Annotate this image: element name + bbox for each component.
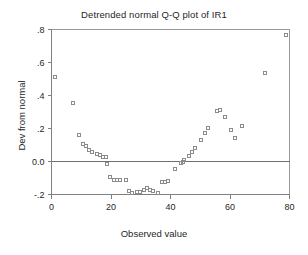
data-point-marker	[152, 190, 155, 193]
data-point-marker	[264, 72, 267, 75]
data-point-marker	[106, 163, 109, 166]
data-point-marker	[207, 127, 210, 130]
data-point-marker	[157, 192, 160, 195]
y-axis-title: Dev from normal	[16, 46, 27, 186]
y-tick-label: .8	[37, 25, 45, 35]
y-tick-label: .2	[37, 124, 45, 134]
data-point-marker	[204, 132, 207, 135]
data-point-marker	[139, 191, 142, 194]
data-point-marker	[72, 102, 75, 105]
x-axis-title: Observed value	[0, 228, 308, 239]
x-tick-label: 80	[284, 202, 294, 212]
data-point-marker	[125, 179, 128, 182]
data-point-marker	[167, 180, 170, 183]
data-point-marker	[78, 134, 81, 137]
qq-plot-figure: Detrended normal Q-Q plot of IR1 -.20.0.…	[0, 0, 308, 255]
y-tick-label: .6	[37, 58, 45, 68]
data-point-marker	[285, 34, 288, 37]
data-point-marker	[54, 76, 57, 79]
data-point-marker	[230, 129, 233, 132]
data-point-marker	[234, 137, 237, 140]
x-tick-label: 0	[49, 202, 54, 212]
data-point-marker	[188, 155, 191, 158]
data-point-marker	[119, 179, 122, 182]
data-point-marker	[191, 151, 194, 154]
data-point-marker	[194, 147, 197, 150]
data-point-marker	[105, 156, 108, 159]
data-point-marker	[174, 168, 177, 171]
plot-canvas: -.20.0.2.4.6.8020406080	[0, 0, 308, 255]
x-tick-label: 40	[165, 202, 175, 212]
data-point-marker	[85, 145, 88, 148]
y-tick-label: .4	[37, 91, 45, 101]
data-point-marker	[131, 192, 134, 195]
x-tick-label: 60	[225, 202, 235, 212]
y-tick-label: -.2	[34, 190, 45, 200]
data-point-marker	[241, 125, 244, 128]
data-point-marker	[200, 139, 203, 142]
y-tick-label: 0.0	[32, 157, 45, 167]
data-point-marker	[91, 151, 94, 154]
data-point-marker	[109, 176, 112, 179]
data-point-marker	[219, 109, 222, 112]
data-point-marker	[224, 116, 227, 119]
x-tick-label: 20	[106, 202, 116, 212]
